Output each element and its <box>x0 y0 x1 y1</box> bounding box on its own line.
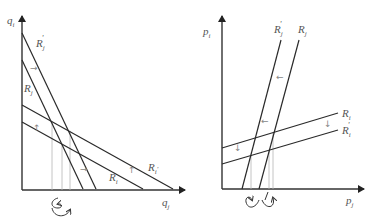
left-shift-arrows: →↑→↑ <box>30 63 136 175</box>
right-label-Rj-prime: Rj' <box>273 20 283 38</box>
shift-arrow-icon: ↑ <box>33 123 41 133</box>
shift-arrow-icon: ← <box>276 72 284 82</box>
reaction-curve-rj-prime <box>242 40 281 189</box>
right-x-axis-label: pj <box>345 194 354 209</box>
right-label-Rj: Rj <box>297 23 307 38</box>
left-label-Rj: Rj <box>23 82 33 97</box>
left-label-Ri: Ri <box>108 171 118 186</box>
left-label-Rj-prime: Rj' <box>35 34 45 52</box>
reaction-curve-rj <box>22 60 83 189</box>
right-label-Ri-prime: Ri' <box>341 121 351 139</box>
shift-arrow-icon: → <box>30 63 38 73</box>
right-shift-arrows: ←←↓↓ <box>234 72 332 153</box>
shift-arrow-icon: → <box>80 164 88 174</box>
reaction-functions-diagram: →↑→↑ qi qj Rj' Rj Ri' Ri ←←↓↓ <box>0 0 371 219</box>
shift-arrow-icon: ↓ <box>324 119 332 129</box>
left-adjustment-curl-icon <box>52 198 70 216</box>
shift-arrow-icon: ↑ <box>128 165 136 175</box>
right-y-axis-label: pi <box>202 25 211 40</box>
left-x-axis-label: qj <box>162 196 170 211</box>
left-label-Ri-prime: Ri' <box>147 161 159 176</box>
reaction-curve-ri-prime <box>22 105 173 189</box>
shift-arrow-icon: ↓ <box>234 143 242 153</box>
left-y-axis-label: qi <box>7 14 15 29</box>
reaction-curve-rj <box>259 40 299 189</box>
left-panel-quantity-competition: →↑→↑ qi qj Rj' Rj Ri' Ri <box>7 14 185 216</box>
right-panel-price-competition: ←←↓↓ pi pj Rj' Rj Ri Ri' <box>202 16 364 209</box>
right-adjustment-curl-icon <box>246 192 274 207</box>
right-reaction-curves <box>222 40 338 189</box>
shift-arrow-icon: ← <box>261 116 269 126</box>
right-label-Ri: Ri <box>341 107 351 122</box>
